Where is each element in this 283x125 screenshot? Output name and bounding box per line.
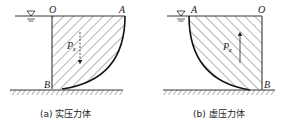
label-o: O xyxy=(49,4,56,15)
ground-hatch xyxy=(10,90,123,95)
figure-b: A O B Pz (b) 虚压力体 xyxy=(163,4,275,119)
pressure-body-region xyxy=(189,16,262,90)
caption-b: (b) 虚压力体 xyxy=(193,108,245,119)
pressure-body-region xyxy=(52,16,125,89)
label-b: B xyxy=(264,79,270,90)
figure-a: O A B Pz (a) 实压力体 xyxy=(10,4,126,119)
pressure-body-diagram: O A B Pz (a) 实压力体 A O B Pz (b) 虚压力体 xyxy=(0,0,283,125)
label-o: O xyxy=(258,4,265,15)
label-a: A xyxy=(118,4,126,15)
caption-a: (a) 实压力体 xyxy=(40,108,91,119)
label-a: A xyxy=(190,4,198,15)
ground-hatch xyxy=(163,90,275,95)
label-b: B xyxy=(44,79,50,90)
